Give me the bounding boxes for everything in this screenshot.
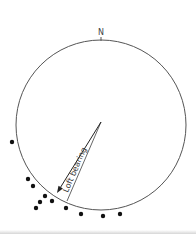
shot-dot (118, 212, 122, 216)
shot-dot (38, 200, 42, 204)
shot-dot (10, 140, 14, 144)
shot-dot (31, 184, 35, 188)
loft-bearing-line (67, 122, 101, 201)
loft-bearing-diagram: N Loft bearing (0, 0, 196, 234)
shot-dot (79, 212, 83, 216)
shot-dot (43, 194, 47, 198)
loft-bearing-label: Loft bearing (61, 146, 88, 194)
shot-dot (26, 177, 30, 181)
north-label: N (98, 28, 104, 37)
shot-dot (50, 199, 54, 203)
shot-dot (34, 206, 38, 210)
shot-dot (64, 206, 68, 210)
shot-dot (101, 214, 105, 218)
bottom-divider (0, 230, 196, 234)
compass-circle (16, 40, 186, 210)
